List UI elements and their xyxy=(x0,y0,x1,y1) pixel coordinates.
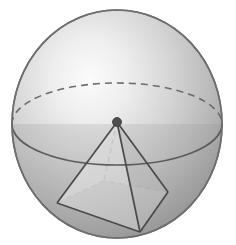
sphere-pyramid-diagram xyxy=(0,0,236,245)
apex-center-dot xyxy=(113,118,122,127)
figure-container: Sphere with inscribed square pyramid xyxy=(0,0,236,245)
